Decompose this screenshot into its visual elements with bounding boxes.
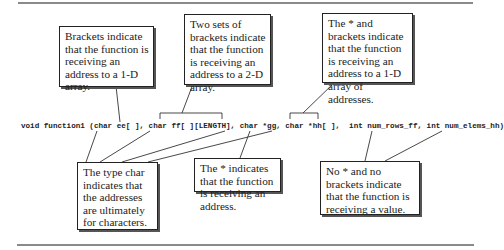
bracket-hh xyxy=(290,113,318,119)
callout-star-and-brackets: The * and brackets indicate that the fun… xyxy=(322,13,413,83)
callout-two-brackets-2d: Two sets of brackets indicate that the f… xyxy=(184,14,271,85)
callout-type-char: The type char indicates that the address… xyxy=(77,162,158,230)
callout-star-address: The * indicates that the function is rec… xyxy=(194,158,281,192)
function-signature: void function1 (char ee[ ], char ff[ ][L… xyxy=(21,122,504,130)
callout-brackets-1d: Brackets indicate that the function is r… xyxy=(59,26,154,87)
callout-no-star-value: No * and no brackets indicate that the f… xyxy=(320,161,420,215)
bracket-ff xyxy=(160,113,222,119)
